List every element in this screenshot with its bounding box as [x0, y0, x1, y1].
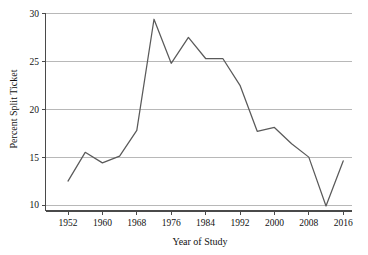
- y-tick-label: 15: [30, 153, 40, 163]
- x-tick-label: 2000: [265, 218, 284, 228]
- x-tick-label: 1960: [93, 218, 112, 228]
- x-tick-label: 1976: [162, 218, 181, 228]
- x-tick-label: 1952: [59, 218, 78, 228]
- y-axis-title: Percent Split Ticket: [8, 69, 19, 148]
- x-tick-labels: 195219601968197619841992200020082016: [59, 218, 353, 228]
- y-tick-label: 20: [30, 105, 40, 115]
- gridlines: [46, 14, 353, 206]
- y-tick-label: 30: [30, 9, 40, 19]
- x-tick-label: 2016: [334, 218, 353, 228]
- chart-page: 1015202530 19521960196819761984199220002…: [0, 0, 368, 255]
- line-chart: 1015202530 19521960196819761984199220002…: [0, 0, 368, 255]
- data-series-line: [68, 19, 343, 206]
- y-tick-labels: 1015202530: [30, 9, 40, 211]
- tick-marks: [42, 14, 343, 216]
- x-tick-label: 1968: [127, 218, 146, 228]
- y-tick-label: 25: [30, 57, 40, 67]
- x-axis-title: Year of Study: [172, 236, 227, 247]
- x-tick-label: 1984: [196, 218, 215, 228]
- y-tick-label: 10: [30, 200, 40, 210]
- x-tick-label: 2008: [299, 218, 318, 228]
- axes: [46, 13, 353, 211]
- x-tick-label: 1992: [231, 218, 250, 228]
